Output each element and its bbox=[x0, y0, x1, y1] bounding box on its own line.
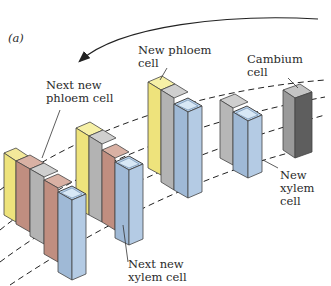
new-xylem-cell bbox=[233, 106, 262, 178]
xylem-cell-front bbox=[58, 186, 86, 280]
label-next-new-phloem-cell: Next new phloem cell bbox=[46, 79, 113, 105]
label-new-phloem-cell: New phloem cell bbox=[138, 44, 211, 70]
label-next-new-xylem-cell: Next new xylem cell bbox=[128, 258, 187, 284]
xylem-cell-2 bbox=[115, 156, 143, 245]
cambium-diagram: (a) New phloem cell Cambium cell Next ne… bbox=[0, 0, 331, 286]
cambium-cell bbox=[283, 84, 312, 158]
panel-label: (a) bbox=[8, 32, 24, 45]
xylem-cell-center bbox=[174, 98, 202, 198]
label-cambium-cell: Cambium cell bbox=[247, 53, 303, 79]
label-new-xylem-cell: New xylem cell bbox=[280, 169, 314, 208]
